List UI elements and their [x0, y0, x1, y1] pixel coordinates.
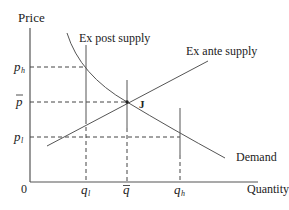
svg-text:l: l — [21, 136, 24, 145]
qh-label: q h — [174, 182, 185, 198]
svg-text:h: h — [21, 66, 25, 75]
demand-label: Demand — [236, 150, 277, 164]
point-j-label: J — [139, 98, 145, 110]
origin-label: 0 — [21, 182, 27, 196]
qbar-label: q — [123, 182, 130, 197]
ql-label: q l — [81, 182, 91, 198]
svg-text:q: q — [174, 182, 181, 197]
svg-text:h: h — [181, 189, 185, 198]
ex-post-supply-label: Ex post supply — [79, 31, 150, 45]
svg-text:p: p — [13, 129, 21, 144]
svg-text:l: l — [88, 189, 91, 198]
pl-label: p l — [13, 129, 24, 145]
svg-text:p: p — [15, 94, 23, 109]
price-axis-label: Price — [18, 10, 45, 25]
svg-text:q: q — [123, 182, 130, 197]
supply-demand-diagram: Price Quantity 0 Ex post supply Ex ante … — [0, 0, 289, 210]
quantity-axis-label: Quantity — [247, 182, 289, 196]
svg-text:q: q — [81, 182, 88, 197]
point-j-marker — [125, 100, 129, 104]
diagram-canvas: Price Quantity 0 Ex post supply Ex ante … — [0, 0, 289, 210]
svg-text:p: p — [13, 59, 21, 74]
ex-ante-supply-label: Ex ante supply — [186, 44, 257, 58]
ph-label: p h — [13, 59, 25, 75]
pbar-label: p — [15, 94, 23, 109]
